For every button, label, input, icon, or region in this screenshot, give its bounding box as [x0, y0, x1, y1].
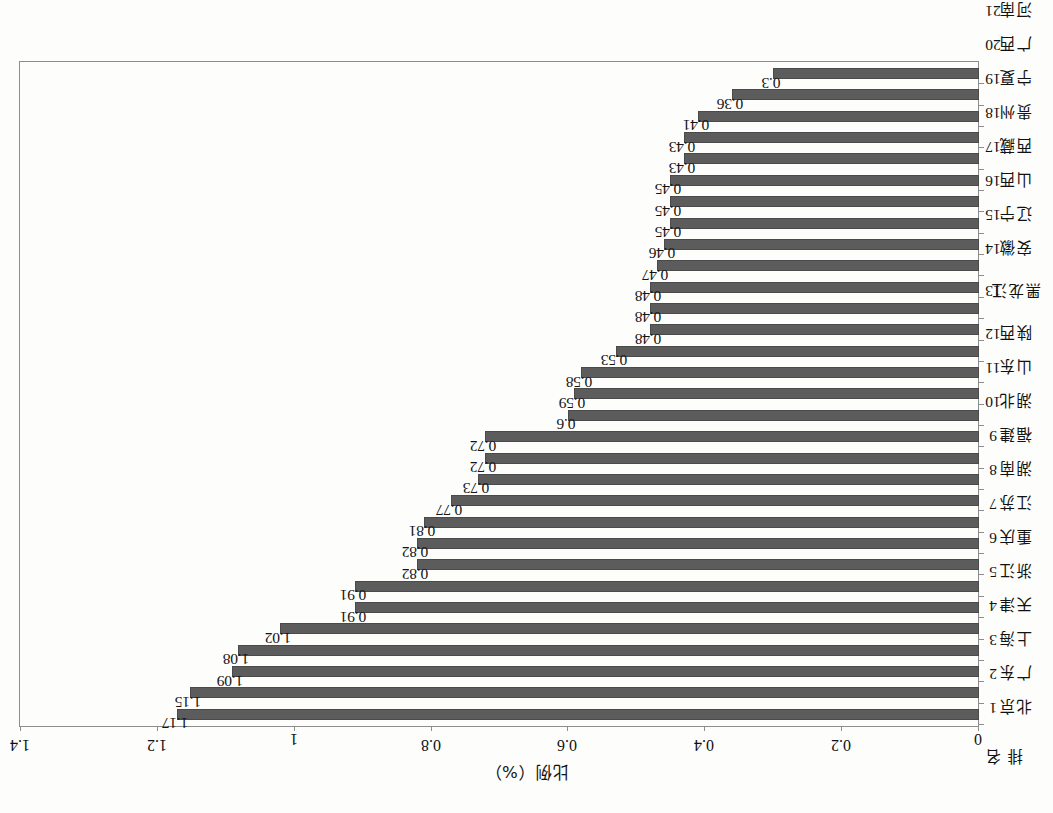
- bar-value-label: 0.45: [655, 223, 681, 241]
- bar[interactable]: 0.3: [773, 68, 979, 79]
- category-rank-label: 6: [989, 528, 997, 548]
- category-label-group: 2广东: [983, 657, 1047, 691]
- category-axis-labels: 1北京2广东3上海4天津5浙江6重庆7江苏8湖南9福建10湖北11山东12陕西1…: [983, 61, 1047, 727]
- category-label-group: 12陕西: [983, 317, 1047, 351]
- value-tick-label: 0.6: [557, 736, 577, 754]
- category-name-label: 福建: [998, 425, 1032, 447]
- bar[interactable]: 0.46: [664, 239, 979, 250]
- category-name-label: 上海: [998, 629, 1032, 651]
- bar-slot: 0.53: [19, 341, 979, 362]
- bar[interactable]: 1.15: [190, 687, 979, 698]
- bar[interactable]: 0.48: [650, 303, 979, 314]
- bar-slot: 0.73: [19, 469, 979, 490]
- bar-slot: 0.46: [19, 234, 979, 255]
- bar-slot: 0.81: [19, 511, 979, 532]
- value-tick-label: 1: [290, 730, 298, 748]
- category-name-label: 黑龙江: [990, 281, 1041, 303]
- category-rank-label: 4: [989, 596, 997, 616]
- bar-value-label: 0.36: [717, 95, 743, 113]
- bar[interactable]: 0.53: [616, 346, 979, 357]
- bar-slot: 0.72: [19, 426, 979, 447]
- bar-slot: 1.09: [19, 661, 979, 682]
- bar-value-label: 0.72: [470, 458, 496, 476]
- bar[interactable]: 0.48: [650, 324, 979, 335]
- bar[interactable]: 0.82: [417, 559, 979, 570]
- bar-slot: 0.77: [19, 490, 979, 511]
- bar[interactable]: 0.58: [581, 367, 979, 378]
- category-name-label: 山西: [998, 170, 1032, 192]
- bar-slot: 0.82: [19, 533, 979, 554]
- category-name-label: 江苏: [998, 493, 1032, 515]
- bar-slot: 0.43: [19, 148, 979, 169]
- category-label-group: 11山东: [983, 351, 1047, 385]
- category-label-group: 9福建: [983, 419, 1047, 453]
- bar[interactable]: 0.45: [670, 175, 979, 186]
- bar[interactable]: 1.02: [280, 623, 979, 634]
- category-name-label: 山东: [998, 357, 1032, 379]
- category-rank-label: 9: [989, 426, 997, 446]
- bar-slot: 0.48: [19, 319, 979, 340]
- category-label-group: 4天津: [983, 589, 1047, 623]
- category-rank-label: 2: [989, 664, 997, 684]
- value-tick-label: 1.2: [147, 736, 167, 754]
- category-rank-label: 7: [989, 494, 997, 514]
- bar-slot: 0.45: [19, 170, 979, 191]
- bar-slot: 0.36: [19, 84, 979, 105]
- bar-value-label: 0.3: [762, 74, 781, 92]
- bar-slot: 0.72: [19, 447, 979, 468]
- bar[interactable]: 1.08: [238, 645, 979, 656]
- bar-slot: 0.59: [19, 383, 979, 404]
- category-label-group: 14安徽: [983, 232, 1047, 266]
- bar[interactable]: 0.72: [485, 453, 979, 464]
- value-tick-label: 0.4: [694, 736, 714, 754]
- bar[interactable]: 0.6: [568, 410, 979, 421]
- value-axis-title: 比例（%）: [485, 761, 569, 785]
- bar[interactable]: 0.47: [657, 260, 979, 271]
- category-name-label: 重庆: [998, 527, 1032, 549]
- category-name-label: 安徽: [998, 238, 1032, 260]
- bar[interactable]: 0.59: [574, 388, 979, 399]
- bar-value-label: 0.72: [470, 437, 496, 455]
- category-label-group: 18贵州: [983, 96, 1047, 130]
- bar-value-label: 0.48: [635, 287, 661, 305]
- category-label-group: 16山西: [983, 164, 1047, 198]
- bar[interactable]: 0.43: [684, 132, 979, 143]
- category-header-name: 排: [1007, 747, 1023, 769]
- category-axis-header: 名 排: [983, 733, 1047, 783]
- bar[interactable]: 0.91: [355, 581, 979, 592]
- bar[interactable]: 0.81: [424, 517, 979, 528]
- bar-slot: 0.45: [19, 191, 979, 212]
- bar-value-label: 0.48: [635, 330, 661, 348]
- bar[interactable]: 0.73: [478, 474, 979, 485]
- category-name-label: 湖南: [998, 459, 1032, 481]
- bar-value-label: 0.46: [648, 244, 674, 262]
- bar-value-label: 0.77: [436, 501, 462, 519]
- bar[interactable]: 1.09: [232, 666, 979, 677]
- category-label-group: 17西藏: [983, 130, 1047, 164]
- bar[interactable]: 0.45: [670, 218, 979, 229]
- category-label-group: 13黑龙江: [983, 266, 1047, 317]
- bar-value-label: 0.82: [402, 565, 428, 583]
- category-label-group: 1北京: [983, 691, 1047, 725]
- bar[interactable]: 1.17: [177, 709, 979, 720]
- bar[interactable]: 0.43: [684, 153, 979, 164]
- bar-value-label: 0.53: [600, 351, 626, 369]
- bar[interactable]: 0.48: [650, 282, 979, 293]
- value-tick-label: 1.4: [10, 736, 30, 754]
- bar[interactable]: 0.45: [670, 196, 979, 207]
- category-name-label: 辽宁: [998, 204, 1032, 226]
- category-rank-label: 8: [989, 460, 997, 480]
- bar-slot: 0.3: [19, 63, 979, 84]
- bar[interactable]: 0.91: [355, 602, 979, 613]
- bar-slot: 0.48: [19, 298, 979, 319]
- bar-chart: 比例（%） 00.20.40.60.811.21.4 1.171.151.091…: [0, 0, 1053, 813]
- bar-value-label: 0.59: [559, 394, 585, 412]
- category-header-rank: 名: [985, 748, 1001, 768]
- bar[interactable]: 0.82: [417, 538, 979, 549]
- bar-value-label: 0.47: [642, 266, 668, 284]
- category-rank-label: 1: [989, 698, 997, 718]
- bar-slot: 0.45: [19, 212, 979, 233]
- category-name-label: 广西: [998, 34, 1032, 56]
- bar[interactable]: 0.77: [451, 495, 979, 506]
- value-tick-label: 0: [974, 730, 982, 748]
